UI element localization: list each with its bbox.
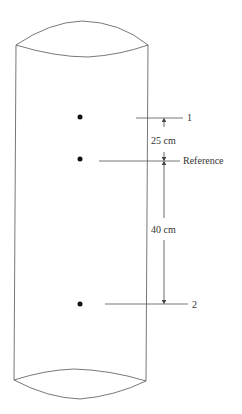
cylinder — [14, 21, 148, 399]
top-ellipse-lower-arc — [16, 45, 148, 57]
cylinder-left-wall — [14, 45, 16, 380]
dimension-40-label: 40 cm — [151, 224, 176, 235]
point-2-dot — [78, 302, 83, 307]
point-1-label: 1 — [187, 112, 192, 123]
top-ellipse-upper-arc — [16, 21, 148, 45]
bottom-ellipse-lower-arc — [14, 380, 146, 399]
point-2-label: 2 — [192, 299, 197, 310]
cylinder-right-wall — [146, 45, 148, 381]
cylinder-diagram: 1 Reference 2 25 cm 40 cm — [0, 0, 242, 414]
point-reference-label: Reference — [183, 155, 224, 166]
point-1-dot — [78, 115, 83, 120]
dimension-25-label: 25 cm — [151, 135, 176, 146]
point-reference-dot — [78, 157, 83, 162]
bottom-ellipse-upper-arc — [14, 369, 146, 381]
